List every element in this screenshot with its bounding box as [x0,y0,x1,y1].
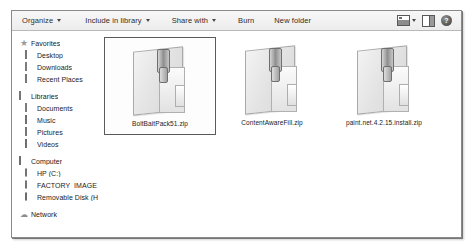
chevron-down-icon [412,19,416,22]
pictures-icon [25,128,34,137]
sidebar-item-downloads[interactable]: Downloads [12,61,98,73]
chevron-down-icon [212,19,216,22]
explorer-body: ★ Favorites Desktop Downloads Recent Pla… [12,31,461,237]
file-item-paintnet-install[interactable]: paint.net.4.2.15.install.zip [328,37,440,135]
sidebar-item-documents[interactable]: Documents [12,102,98,114]
show-preview-pane-button[interactable] [420,13,437,29]
recent-places-icon [25,75,34,84]
sidebar-label-pictures: Pictures [37,129,63,136]
sidebar-label-recent-places: Recent Places [37,76,83,83]
documents-icon [25,104,34,113]
music-icon [25,116,34,125]
toolbar-label-burn: Burn [238,16,254,25]
change-view-button[interactable] [395,13,418,29]
toolbar-button-include-in-library[interactable]: Include in library [79,12,155,29]
sidebar-label-favorites: Favorites [31,40,60,47]
hard-drive-icon [25,169,34,178]
toolbar-button-organize[interactable]: Organize [16,12,67,29]
sidebar-label-videos: Videos [37,141,59,148]
zip-archive-icon [241,44,303,114]
toolbar-label-new-folder: New folder [274,16,311,25]
nav-group-computer: Computer HP (C:) FACTORY_IMAGE (D Remova… [12,155,98,203]
star-icon: ★ [19,39,28,48]
sidebar-item-favorites[interactable]: ★ Favorites [12,37,98,49]
network-icon: ☁ [19,210,28,219]
sidebar-item-desktop[interactable]: Desktop [12,49,98,61]
zip-archive-icon [353,44,415,114]
explorer-toolbar: Organize Include in library Share with B… [12,11,461,31]
zip-archive-icon [129,45,191,115]
sidebar-item-recent-places[interactable]: Recent Places [12,73,98,85]
sidebar-item-hp-c[interactable]: HP (C:) [12,167,98,179]
nav-group-network: ☁ Network [12,208,98,220]
sidebar-label-documents: Documents [37,105,73,112]
nav-group-libraries: Libraries Documents Music Pictures [12,90,98,150]
explorer-window: Organize Include in library Share with B… [11,10,462,238]
chevron-down-icon [146,19,150,22]
show-preview-pane-icon [422,15,435,27]
hard-drive-icon [25,181,34,190]
downloads-icon [25,63,34,72]
sidebar-label-music: Music [37,117,56,124]
sidebar-item-videos[interactable]: Videos [12,138,98,150]
file-list-pane[interactable]: BoltBaitPack51.zip ContentAwareFill.zip [98,31,461,237]
toolbar-button-burn[interactable]: Burn [232,12,260,29]
sidebar-label-computer: Computer [31,158,62,165]
sidebar-item-libraries[interactable]: Libraries [12,90,98,102]
libraries-icon [19,92,28,101]
nav-group-favorites: ★ Favorites Desktop Downloads Recent Pla… [12,37,98,85]
file-label: paint.net.4.2.15.install.zip [346,118,422,127]
file-label: ContentAwareFill.zip [241,118,303,127]
desktop-icon [25,51,34,60]
sidebar-item-pictures[interactable]: Pictures [12,126,98,138]
sidebar-item-computer[interactable]: Computer [12,155,98,167]
change-view-icon [397,15,410,26]
screen: Organize Include in library Share with B… [0,0,473,249]
sidebar-label-network: Network [31,211,57,218]
sidebar-label-desktop: Desktop [37,52,63,59]
sidebar-label-libraries: Libraries [31,93,58,100]
sidebar-label-factory-image-d: FACTORY_IMAGE (D [37,182,98,189]
sidebar-label-hp-c: HP (C:) [37,170,61,177]
chevron-down-icon [57,19,61,22]
sidebar-item-music[interactable]: Music [12,114,98,126]
sidebar-label-downloads: Downloads [37,64,72,71]
toolbar-label-share-with: Share with [172,16,208,25]
help-icon: ? [441,15,452,26]
removable-disk-icon [25,193,34,202]
file-item-boltbaitpack51[interactable]: BoltBaitPack51.zip [104,37,216,135]
file-item-contentawarefill[interactable]: ContentAwareFill.zip [216,37,328,135]
computer-icon [19,157,28,166]
sidebar-label-removable-disk-h: Removable Disk (H:) [37,194,98,201]
sidebar-item-factory-image-d[interactable]: FACTORY_IMAGE (D [12,179,98,191]
file-label: BoltBaitPack51.zip [132,119,188,128]
toolbar-right-group: ? [395,13,457,29]
sidebar-item-network[interactable]: ☁ Network [12,208,98,220]
videos-icon [25,140,34,149]
sidebar-item-removable-disk-h[interactable]: Removable Disk (H:) [12,191,98,203]
help-button[interactable]: ? [439,13,454,29]
toolbar-button-new-folder[interactable]: New folder [268,12,317,29]
toolbar-label-include-in-library: Include in library [85,16,141,25]
toolbar-label-organize: Organize [22,16,53,25]
navigation-pane[interactable]: ★ Favorites Desktop Downloads Recent Pla… [12,31,98,237]
toolbar-button-share-with[interactable]: Share with [166,12,222,29]
